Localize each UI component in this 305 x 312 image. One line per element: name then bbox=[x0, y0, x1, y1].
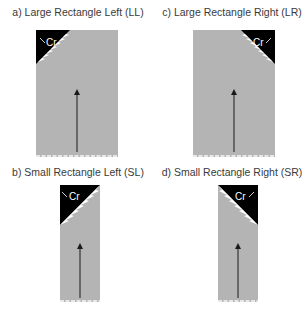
cr-label: Cr bbox=[235, 191, 246, 202]
panel-sr: Cr bbox=[218, 185, 258, 302]
panel-ll: Cr bbox=[36, 30, 118, 157]
cr-label: Cr bbox=[253, 37, 264, 48]
panel-sl: Cr bbox=[60, 185, 100, 302]
diagram-canvas: Cr Cr Cr Cr bbox=[0, 0, 305, 312]
cr-label: Cr bbox=[46, 37, 57, 48]
panel-lr: Cr bbox=[193, 30, 275, 157]
cr-label: Cr bbox=[69, 191, 80, 202]
